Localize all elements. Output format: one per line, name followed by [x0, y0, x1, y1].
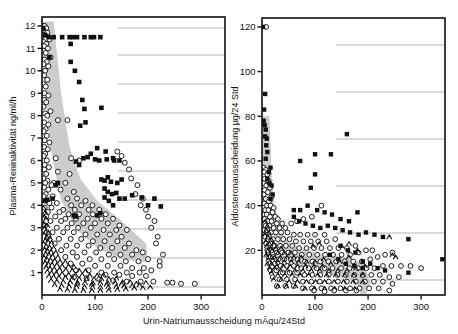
- y-tick-label: 7: [30, 132, 35, 143]
- marker-caret: [51, 275, 56, 279]
- marker-open-circle: [301, 239, 306, 244]
- marker-open-circle: [119, 154, 124, 159]
- y-tick-label: 12: [25, 20, 36, 31]
- marker-open-circle: [115, 239, 120, 244]
- marker-open-circle: [82, 250, 87, 255]
- marker-open-circle: [69, 221, 74, 226]
- marker-caret: [119, 282, 124, 286]
- marker-open-circle: [99, 257, 104, 262]
- marker-open-circle: [49, 205, 54, 210]
- marker-caret: [98, 289, 103, 293]
- marker-filled-square: [269, 183, 273, 187]
- x-axis: 0100200300: [259, 295, 429, 312]
- marker-open-circle: [126, 241, 131, 246]
- marker-caret: [49, 271, 54, 275]
- marker-filled-square: [315, 208, 319, 212]
- x-tick-label: 100: [307, 301, 323, 312]
- marker-open-circle: [65, 118, 70, 123]
- y-axis: 123456789101112: [25, 20, 42, 278]
- marker-filled-square: [50, 196, 55, 201]
- marker-filled-square: [309, 186, 313, 190]
- marker-caret: [81, 289, 86, 293]
- marker-open-circle: [330, 266, 335, 271]
- marker-open-circle: [339, 266, 344, 271]
- marker-open-circle: [90, 203, 95, 208]
- marker-filled-square: [102, 195, 107, 200]
- marker-open-circle: [305, 232, 310, 237]
- marker-filled-square: [311, 224, 315, 228]
- marker-open-circle: [130, 273, 135, 278]
- x-tick-label: 0: [39, 301, 44, 312]
- marker-open-circle: [170, 280, 175, 285]
- marker-filled-square: [70, 35, 75, 40]
- marker-caret: [55, 263, 60, 267]
- marker-filled-square: [122, 196, 127, 201]
- marker-open-circle: [135, 183, 140, 188]
- marker-caret: [52, 283, 57, 287]
- y-tick-label: 9: [30, 88, 35, 99]
- marker-open-circle: [304, 246, 309, 251]
- marker-open-circle: [313, 232, 318, 237]
- marker-open-circle: [85, 216, 90, 221]
- marker-open-circle: [165, 280, 170, 285]
- marker-open-circle: [152, 219, 157, 224]
- marker-filled-square: [72, 213, 77, 218]
- marker-filled-square: [75, 35, 80, 40]
- marker-caret: [54, 271, 59, 275]
- marker-filled-square: [322, 210, 326, 214]
- marker-filled-square: [297, 219, 301, 223]
- panel-left: 1234567891011120100200300Plasma-Reninakt…: [0, 0, 232, 334]
- marker-open-circle: [49, 183, 54, 188]
- marker-filled-square: [139, 195, 144, 200]
- marker-filled-square: [82, 107, 87, 112]
- y-axis-title: Plasma-Reninaktivität ng/ml/h: [8, 96, 18, 215]
- marker-caret: [313, 280, 318, 284]
- marker-filled-square: [292, 208, 296, 212]
- marker-open-circle: [155, 234, 160, 239]
- marker-open-circle: [47, 140, 52, 145]
- y-tick-label: 40: [245, 200, 256, 211]
- marker-filled-square: [110, 192, 115, 197]
- marker-filled-square: [104, 157, 109, 162]
- marker-caret: [58, 260, 63, 264]
- marker-open-circle: [130, 252, 135, 257]
- plot-content: [41, 21, 198, 292]
- marker-filled-square: [328, 253, 332, 257]
- marker-filled-square: [115, 181, 120, 186]
- marker-filled-square: [159, 204, 164, 209]
- marker-open-circle: [324, 239, 329, 244]
- marker-open-circle: [157, 259, 162, 264]
- marker-open-circle: [124, 270, 129, 275]
- marker-open-circle: [99, 216, 104, 221]
- y-tick-label: 10: [25, 65, 36, 76]
- marker-open-circle: [61, 230, 66, 235]
- marker-caret: [276, 273, 281, 277]
- marker-open-circle: [71, 230, 76, 235]
- marker-filled-square: [381, 235, 385, 239]
- marker-open-circle: [136, 259, 141, 264]
- marker-open-circle: [95, 232, 100, 237]
- marker-caret: [73, 289, 78, 293]
- marker-filled-square: [305, 203, 309, 207]
- marker-filled-square: [81, 156, 86, 161]
- marker-open-circle: [48, 109, 53, 114]
- marker-caret: [51, 246, 56, 250]
- scan-artifacts: [336, 45, 445, 280]
- marker-open-circle: [46, 165, 51, 170]
- marker-open-circle: [364, 248, 369, 253]
- marker-caret: [45, 270, 50, 274]
- marker-filled-square: [80, 98, 85, 103]
- marker-open-circle: [390, 281, 395, 286]
- y-tick-label: 20: [245, 245, 256, 256]
- marker-open-circle: [70, 250, 75, 255]
- marker-caret: [48, 258, 53, 262]
- y-tick-label: 4: [30, 200, 35, 211]
- marker-open-circle: [88, 225, 93, 230]
- marker-filled-square: [47, 55, 52, 60]
- marker-open-circle: [396, 275, 401, 280]
- marker-open-circle: [86, 207, 91, 212]
- marker-open-circle: [55, 118, 60, 123]
- marker-open-circle: [178, 281, 183, 286]
- marker-caret: [48, 266, 53, 270]
- marker-open-circle: [408, 264, 413, 269]
